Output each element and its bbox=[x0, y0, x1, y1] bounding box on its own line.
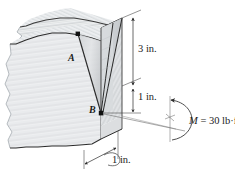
moment-equals: = bbox=[198, 115, 209, 126]
label-dim-3in: 3 in. bbox=[138, 44, 157, 55]
moment-unit: lb·ft bbox=[222, 115, 235, 126]
label-dim-1in-vertical: 1 in. bbox=[138, 92, 157, 103]
mechanics-figure bbox=[0, 0, 235, 172]
moment-magnitude: 30 bbox=[209, 115, 220, 126]
label-dim-1in-depth: 1 in. bbox=[112, 155, 131, 166]
moment-symbol: M bbox=[189, 115, 198, 126]
label-moment: M = 30 lb·ft bbox=[189, 116, 235, 127]
point-b-marker bbox=[99, 111, 104, 116]
label-point-b: B bbox=[89, 105, 96, 115]
point-a-marker bbox=[76, 32, 80, 36]
label-point-a: A bbox=[68, 53, 75, 63]
